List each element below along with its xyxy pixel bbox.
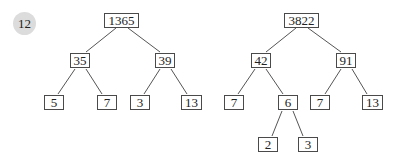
tree-edge [272, 111, 282, 136]
tree-node-box: 2 [258, 137, 278, 152]
tree-node-box: 39 [155, 53, 175, 68]
tree-edge [293, 111, 303, 136]
factor-trees-diagram: 12 1365353957313382242917671323 [0, 0, 396, 164]
tree-edges [0, 0, 396, 164]
tree-node-box: 6 [278, 95, 298, 110]
tree-node-box: 42 [251, 53, 271, 68]
tree-edge [58, 69, 75, 94]
tree-edge [86, 69, 102, 94]
tree-node-box: 35 [70, 53, 90, 68]
tree-node-box: 13 [181, 95, 202, 110]
tree-edge [238, 69, 255, 94]
tree-node-box: 13 [362, 95, 383, 110]
tree-edge [352, 69, 367, 94]
tree-node-box: 3 [130, 95, 150, 110]
tree-edge [308, 28, 341, 52]
tree-node-box: 1365 [104, 13, 139, 28]
tree-node-box: 91 [336, 53, 356, 68]
tree-edge [266, 69, 283, 94]
tree-edge [171, 69, 187, 94]
tree-node-box: 3 [298, 137, 318, 152]
tree-edge [86, 28, 116, 52]
tree-edge [325, 69, 341, 94]
tree-node-box: 3822 [284, 13, 319, 28]
tree-edge [144, 69, 160, 94]
tree-node-box: 7 [97, 95, 117, 110]
tree-edge [128, 28, 160, 52]
tree-node-box: 7 [224, 95, 244, 110]
tree-node-box: 7 [310, 95, 330, 110]
tree-node-box: 5 [44, 95, 64, 110]
tree-edge [266, 28, 296, 52]
